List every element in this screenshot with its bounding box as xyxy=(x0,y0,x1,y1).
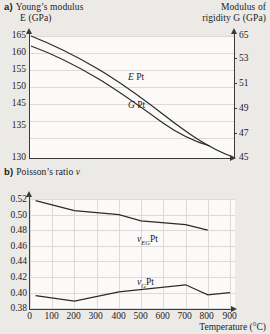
curve-nu-g-pt xyxy=(36,285,230,301)
panel-b-x-axis-title: Temperature (°C) xyxy=(199,322,266,332)
curve-label-nu-eg-material: Pt xyxy=(150,234,158,244)
panel-b-title-text: Poisson’s ratio xyxy=(16,167,73,177)
panel-b-xtick-1: 100 xyxy=(43,312,60,322)
panel-b-curves xyxy=(30,199,235,309)
panel-a-y-axis-right-arrow xyxy=(231,28,237,34)
figure-container: a)Young’s modulus E (GPa) Modulus of rig… xyxy=(0,0,270,334)
panel-a-ytick-left-5: 135 xyxy=(2,121,26,131)
curve-label-e-symbol: E xyxy=(128,72,134,82)
curve-label-nu-eg-subscript: EG xyxy=(141,239,150,246)
panel-a-ytick-right-1: 53 xyxy=(239,54,249,64)
panel-a-ytick-left-0: 165 xyxy=(2,31,26,41)
panel-a-plot-area: E Pt G Pt xyxy=(30,36,234,158)
panel-a-ytick-right-4: 47 xyxy=(239,129,249,139)
panel-b-poisson-ratio: b)Poisson’s ratio ν xyxy=(0,166,270,334)
panel-a-y-axis-left xyxy=(29,33,30,159)
curve-label-g-pt: G Pt xyxy=(128,100,145,110)
panel-b-y-axis-arrow xyxy=(26,191,32,197)
panel-b-title-symbol: ν xyxy=(76,167,80,177)
panel-a-ytick-left-2: 155 xyxy=(2,65,26,75)
panel-b-ytick-0: 0.52 xyxy=(0,195,27,205)
panel-a-curves xyxy=(30,36,234,158)
panel-a-x-axis-arrow xyxy=(230,155,236,161)
panel-b-xtick-0: 0 xyxy=(21,312,38,322)
panel-b-ytick-2: 0.48 xyxy=(0,226,27,236)
panel-a-right-title-line1: Modulus of xyxy=(221,2,266,12)
panel-b-ytick-6: 0.40 xyxy=(0,289,27,299)
curve-label-e-pt: E Pt xyxy=(128,72,144,82)
panel-a-ytick-left-6: 130 xyxy=(2,153,26,163)
panel-a-y-axis-left-arrow xyxy=(26,28,32,34)
panel-a-title-line2: E (GPa) xyxy=(20,13,84,24)
panel-a-right-title-line2: rigidity G (GPa) xyxy=(202,13,266,23)
panel-a-right-title: Modulus of rigidity G (GPa) xyxy=(202,2,266,23)
panel-b-tag: b) xyxy=(4,166,13,177)
panel-a-title-line1: Young’s modulus xyxy=(16,2,84,12)
curve-label-nu-g-material: Pt xyxy=(146,277,154,287)
panel-a-x-axis xyxy=(29,158,232,159)
panel-b-xtick-7: 700 xyxy=(176,312,193,322)
panel-b-xtick-9: 900 xyxy=(221,312,238,322)
curve-label-g-material: Pt xyxy=(137,100,145,110)
panel-b-xtick-4: 400 xyxy=(110,312,127,322)
panel-b-ytick-4: 0.44 xyxy=(0,257,27,267)
panel-b-xtick-3: 300 xyxy=(87,312,104,322)
panel-b-plot-area: νEGPt νGPt xyxy=(30,199,235,309)
panel-b-xtick-5: 500 xyxy=(132,312,149,322)
panel-b-xtick-6: 600 xyxy=(154,312,171,322)
panel-b-xtick-2: 200 xyxy=(65,312,82,322)
curve-label-e-material: Pt xyxy=(136,72,144,82)
panel-b-y-axis xyxy=(29,196,30,310)
panel-a-ytick-left-1: 160 xyxy=(2,48,26,58)
curve-label-nu-g-pt: νGPt xyxy=(137,277,154,291)
curve-label-nu-eg-pt: νEGPt xyxy=(137,234,158,248)
panel-b-ytick-1: 0.50 xyxy=(0,211,27,221)
panel-b-ytick-3: 0.46 xyxy=(0,242,27,252)
panel-a-ytick-right-0: 65 xyxy=(239,31,249,41)
panel-a-ytick-right-3: 49 xyxy=(239,104,249,114)
panel-a-ytick-right-5: 45 xyxy=(239,153,249,163)
panel-a-young-modulus: a)Young’s modulus E (GPa) Modulus of rig… xyxy=(0,0,270,166)
panel-a-ytick-left-3: 150 xyxy=(2,82,26,92)
panel-b-title: b)Poisson’s ratio ν xyxy=(4,167,80,178)
curve-nu-eg-pt xyxy=(36,201,208,231)
panel-a-title: a)Young’s modulus E (GPa) xyxy=(4,2,84,23)
panel-a-ytick-left-4: 145 xyxy=(2,99,26,109)
panel-a-y-axis-right xyxy=(234,33,235,159)
curve-g-pt xyxy=(31,46,210,146)
panel-a-ytick-right-2: 51 xyxy=(239,79,249,89)
curve-e-pt xyxy=(31,36,233,157)
panel-b-ytick-5: 0.42 xyxy=(0,273,27,283)
panel-b-xtick-8: 800 xyxy=(198,312,215,322)
curve-label-g-symbol: G xyxy=(128,100,135,110)
panel-a-tag: a) xyxy=(4,1,13,12)
